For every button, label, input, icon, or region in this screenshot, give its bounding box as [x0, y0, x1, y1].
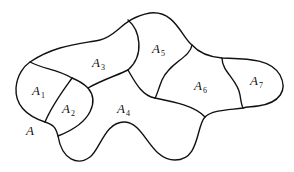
- label-subset-a2: A2: [62, 102, 75, 118]
- boundary-a6-a7: [222, 58, 243, 108]
- label-base: A: [117, 101, 125, 116]
- boundary-a4-a6: [155, 98, 205, 117]
- boundary-a1-a3: [30, 62, 72, 78]
- label-base: A: [32, 83, 40, 98]
- label-subset-a7: A7: [250, 74, 263, 90]
- label-subscript: 2: [71, 109, 75, 118]
- label-subscript: 4: [126, 109, 130, 118]
- label-base: A: [194, 78, 202, 93]
- label-subscript: 1: [41, 91, 45, 100]
- label-subset-a1: A1: [32, 84, 45, 100]
- label-subscript: 3: [101, 63, 105, 72]
- boundary-a3-a5: [128, 20, 139, 70]
- label-subset-a4: A4: [117, 102, 130, 118]
- label-subset-a3: A3: [92, 56, 105, 72]
- label-subscript: 6: [203, 86, 207, 95]
- boundary-a4-a5: [128, 70, 155, 98]
- label-subset-a5: A5: [152, 42, 165, 58]
- label-base: A: [62, 101, 70, 116]
- label-base: A: [250, 73, 258, 88]
- label-base: A: [152, 41, 160, 56]
- label-subscript: 7: [259, 81, 263, 90]
- boundary-a3-a4: [88, 70, 128, 88]
- label-base: A: [26, 123, 34, 138]
- outer-boundary-set-a: [16, 13, 283, 161]
- label-subset-a6: A6: [194, 79, 207, 95]
- label-base: A: [92, 55, 100, 70]
- label-set-a: A: [26, 124, 34, 137]
- label-subscript: 5: [161, 49, 165, 58]
